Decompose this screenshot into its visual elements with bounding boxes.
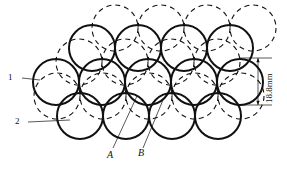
callout-label-2: 2 bbox=[15, 117, 20, 126]
callout-label-1: 1 bbox=[8, 73, 13, 82]
leader-line-point-a bbox=[113, 96, 137, 148]
leader-lines-group bbox=[22, 78, 163, 148]
leader-line-point-b bbox=[143, 100, 163, 148]
dimension-arrow-bottom bbox=[256, 101, 259, 105]
point-label-b: B bbox=[138, 148, 144, 158]
packed-circles-figure bbox=[0, 0, 287, 170]
dimension-arrow-top bbox=[256, 58, 259, 62]
leader-line-callout-2 bbox=[28, 120, 70, 122]
dimension-label: 18.8mm bbox=[264, 73, 274, 103]
point-label-a: A bbox=[107, 150, 113, 160]
leader-line-callout-1 bbox=[22, 78, 40, 80]
diagram-canvas: 1 2 A B 18.8mm bbox=[0, 0, 287, 170]
